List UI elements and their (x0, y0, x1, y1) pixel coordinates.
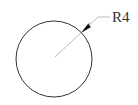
radius-label: R4 (112, 9, 130, 25)
drawing-canvas: R4 (0, 0, 138, 105)
circle-outline (16, 21, 92, 97)
